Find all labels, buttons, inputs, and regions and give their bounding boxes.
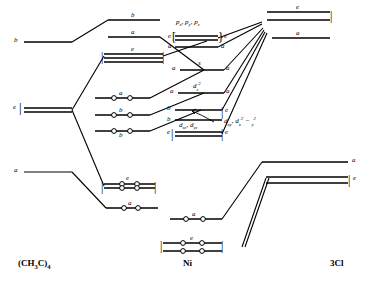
rb-mo-label-a: a: [192, 211, 196, 218]
corr-left-e-to-mo-down: [72, 110, 104, 186]
mo-correlation-diagram: b e a | b a e | | a b b e | | a px, py, …: [0, 0, 386, 284]
ni-label-a-left-s: a: [172, 65, 176, 72]
caption-left-ligand: (CH3C)4: [18, 258, 50, 270]
mo-level-label-e-low: e: [126, 175, 129, 182]
rb-mo-label-e: e: [190, 235, 193, 242]
left-e-bracket: |: [19, 101, 22, 114]
ni-p-bracket-left: [: [172, 31, 176, 43]
electron-circle: [122, 206, 127, 211]
mo-level-label-a-low: a: [128, 200, 132, 207]
corr-rmo-a-to-cl: [222, 162, 262, 219]
ni-label-b-left-1: b: [167, 105, 171, 112]
corr-rmo-e-to-cl-1: [242, 178, 266, 247]
mo-e-low-bracket-left: |: [101, 181, 103, 193]
ni-label-e-left-d: e: [167, 129, 170, 136]
electron-circle: [112, 96, 117, 101]
corr-left-e-to-mo-up: [72, 56, 104, 110]
rb-mo-e-bracket-right: |: [221, 240, 223, 252]
ni-label-a-left-dz2: a: [170, 88, 174, 95]
mo-level-label-a-mid: a: [119, 90, 123, 97]
electron-circle: [120, 186, 125, 191]
electron-circle: [128, 96, 133, 101]
left-level-label-a: a: [14, 167, 18, 174]
right-mo-label-a: a: [296, 30, 300, 37]
mo-e-bracket-right: |: [162, 51, 164, 63]
ni-de-bracket-left: |: [171, 128, 173, 140]
ni-label-a-right-dz2: a: [226, 88, 230, 95]
mo-level-label-b-mid2: b: [119, 132, 123, 139]
ni-label-e-right-d: e: [225, 107, 228, 114]
mo-level-label-e: e: [131, 46, 134, 53]
electron-circle: [200, 249, 205, 254]
mo-level-label-a-top: a: [131, 29, 135, 36]
orbital-label-dxz-dyz: dxz, dyz: [179, 122, 197, 131]
ni-label-a-right-s: a: [226, 65, 230, 72]
right-mo-label-e: e: [296, 4, 299, 11]
electron-circle: [181, 249, 186, 254]
ni-label-b-left-2: b: [167, 116, 171, 123]
electron-circle: [128, 113, 133, 118]
ni-de-bracket-right: |: [221, 128, 223, 140]
mo-level-label-b: b: [131, 12, 135, 19]
corr-left-b-to-mo: [72, 20, 108, 42]
cl-e-bracket: |: [348, 174, 350, 186]
rb-mo-e-bracket-left: |: [160, 240, 162, 252]
ni-label-a-right-p: a: [221, 43, 225, 50]
electron-circle: [184, 217, 189, 222]
electron-circle: [136, 206, 141, 211]
orbital-label-s: s: [198, 60, 201, 67]
left-level-label-e: e: [13, 104, 16, 111]
right-mo-e-bracket: |: [330, 10, 332, 22]
electron-circle: [181, 241, 186, 246]
ni-label-a-left-p: a: [168, 43, 172, 50]
ni-label-e-left: e: [168, 33, 171, 40]
orbital-label-dxy-dx2y2: dxy, dx2 − y2: [224, 117, 256, 127]
left-level-label-b: b: [14, 37, 18, 44]
caption-right-ligand: 3Cl: [330, 258, 344, 268]
electron-circle: [112, 129, 117, 134]
electron-circle: [200, 241, 205, 246]
mo-level-label-b-mid1: b: [119, 107, 123, 114]
orbital-label-p-set: px, py, pz: [176, 19, 200, 28]
orbital-label-dz2: dz2: [193, 82, 201, 92]
cl-level-label-e: e: [353, 175, 356, 182]
ni-label-e-right-de: e: [225, 129, 228, 136]
cl-level-label-a: a: [352, 157, 356, 164]
electron-circle: [135, 186, 140, 191]
mo-e-low-bracket-right: |: [154, 181, 156, 193]
caption-metal: Ni: [183, 258, 192, 268]
electron-circle: [201, 217, 206, 222]
corr-rmo-e-to-cl-2: [245, 178, 269, 247]
ni-label-e-right: e: [224, 33, 227, 40]
mo-e-bracket-left: |: [101, 51, 103, 63]
electron-circle: [112, 113, 117, 118]
electron-circle: [128, 129, 133, 134]
